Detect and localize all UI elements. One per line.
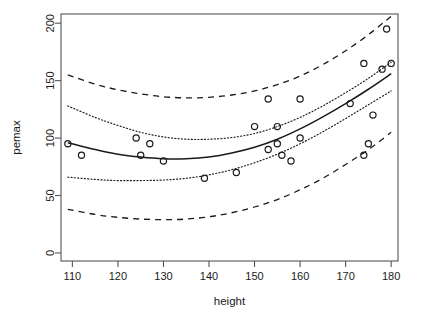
data-point bbox=[370, 112, 376, 118]
curve-confidence-lower bbox=[68, 91, 391, 181]
y-tick-label-200: 200 bbox=[44, 14, 56, 32]
x-tick-label-170: 170 bbox=[336, 270, 354, 282]
x-tick-label-140: 140 bbox=[200, 270, 218, 282]
data-point bbox=[233, 169, 239, 175]
data-point bbox=[147, 141, 153, 147]
data-point bbox=[384, 26, 390, 32]
axes-group bbox=[55, 14, 398, 267]
regression-bands-group bbox=[68, 16, 391, 219]
x-tick-label-150: 150 bbox=[245, 270, 263, 282]
data-point bbox=[361, 60, 367, 66]
plot-box bbox=[61, 14, 398, 261]
scatter-plot-figure: 110120130140150160170180050100150200heig… bbox=[0, 0, 422, 331]
data-point bbox=[274, 123, 280, 129]
curve-prediction-lower bbox=[68, 132, 391, 219]
data-point bbox=[379, 66, 385, 72]
data-point bbox=[274, 141, 280, 147]
y-tick-label-150: 150 bbox=[44, 71, 56, 89]
data-point bbox=[279, 152, 285, 158]
data-point bbox=[78, 152, 84, 158]
curve-confidence-upper bbox=[68, 62, 391, 139]
x-tick-label-110: 110 bbox=[64, 270, 82, 282]
x-tick-label-120: 120 bbox=[109, 270, 127, 282]
axis-labels-group: 110120130140150160170180050100150200heig… bbox=[10, 14, 400, 307]
y-axis-title: pemax bbox=[10, 120, 22, 155]
data-point bbox=[133, 135, 139, 141]
data-point bbox=[288, 158, 294, 164]
curve-fitted-curve bbox=[68, 74, 391, 159]
data-point bbox=[297, 135, 303, 141]
x-tick-label-160: 160 bbox=[291, 270, 309, 282]
plot-canvas: 110120130140150160170180050100150200heig… bbox=[0, 0, 422, 331]
curve-prediction-upper bbox=[68, 16, 391, 98]
y-tick-label-0: 0 bbox=[44, 250, 56, 256]
x-tick-label-130: 130 bbox=[154, 270, 172, 282]
data-point bbox=[265, 146, 271, 152]
x-tick-label-180: 180 bbox=[382, 270, 400, 282]
data-point bbox=[265, 96, 271, 102]
x-axis-title: height bbox=[214, 295, 246, 307]
data-point bbox=[365, 141, 371, 147]
data-point bbox=[201, 175, 207, 181]
y-tick-label-100: 100 bbox=[44, 129, 56, 147]
y-tick-label-50: 50 bbox=[44, 189, 56, 201]
data-point bbox=[251, 123, 257, 129]
data-point bbox=[297, 96, 303, 102]
